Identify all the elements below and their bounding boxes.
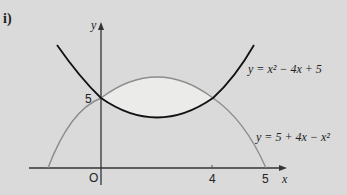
origin-label: O	[89, 172, 98, 184]
part-label: i)	[3, 12, 12, 26]
graph	[0, 0, 347, 195]
y-axis-arrow-icon	[98, 22, 104, 30]
y-intercept-label: 5	[85, 93, 92, 105]
y-axis-label: y	[91, 19, 96, 31]
tick-4-label: 4	[209, 173, 216, 185]
tick-5-label: 5	[262, 173, 269, 185]
x-axis-arrow-icon	[279, 165, 287, 171]
x-axis-label: x	[282, 173, 287, 185]
shaded-region	[101, 77, 213, 118]
curve2-label: y = 5 + 4x − x²	[256, 131, 330, 143]
curve1-label: y = x² − 4x + 5	[248, 63, 322, 75]
